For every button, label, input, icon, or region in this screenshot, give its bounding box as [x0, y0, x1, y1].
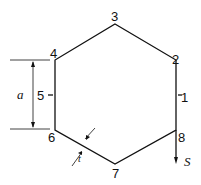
vertex-label-1: 1: [181, 90, 188, 105]
vertex-label-3: 3: [111, 9, 118, 24]
arrowhead-icon: [31, 61, 35, 67]
vertex-label-2: 2: [172, 52, 179, 67]
dimension-a-label: a: [17, 87, 24, 102]
arrowhead-icon: [31, 122, 35, 128]
vertex-label-4: 4: [50, 46, 57, 61]
vertex-label-6: 6: [48, 130, 55, 145]
arrowhead-icon: [174, 157, 178, 164]
hexagon-outline: [55, 24, 176, 164]
thickness-t-label: t: [78, 153, 81, 164]
vertex-label-5: 5: [37, 88, 44, 103]
hexagon-diagram: 1 2 3 4 5 6 7 8 a t S: [0, 0, 201, 185]
force-S-label: S: [184, 154, 191, 169]
vertex-label-8: 8: [178, 130, 185, 145]
vertex-label-7: 7: [112, 166, 119, 181]
